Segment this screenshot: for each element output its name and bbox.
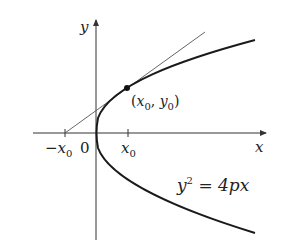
point-label: (x0, y0) — [131, 94, 179, 112]
tick-label-neg-x0: −x0 — [45, 141, 72, 159]
parabola-curve — [97, 40, 256, 233]
parabola-tangent-diagram: y x −x0 0 x0 (x0, y0) y2 = 4px — [0, 0, 281, 240]
y-axis-label: y — [80, 20, 88, 35]
x-axis-label: x — [255, 140, 263, 155]
origin-label: 0 — [80, 141, 90, 156]
equation-label: y2 = 4px — [177, 176, 249, 194]
tick-label-x0: x0 — [121, 141, 136, 159]
diagram-graphics — [0, 0, 281, 240]
tangent-point — [124, 85, 130, 91]
